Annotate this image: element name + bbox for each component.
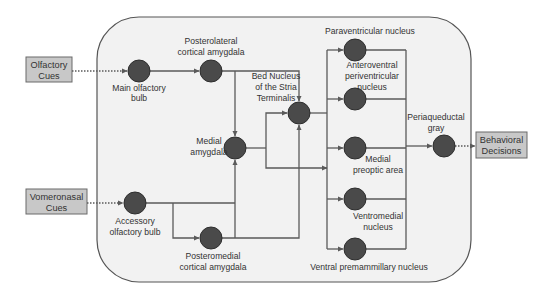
bnst-label-3: Terminalis [257, 93, 296, 103]
olfactory-cues-label-1: Olfactory [31, 60, 68, 70]
olfactory-pathway-diagram: Olfactory Cues Vomeronasal Cues Behavior… [0, 0, 552, 297]
main-olfactory-bulb-label-1: Main olfactory [112, 83, 166, 93]
posteromedial-cortical-amygdala-node [200, 227, 222, 249]
periaqueductal-gray-label-1: Periaqueductal [407, 112, 464, 122]
anteroventral-label-2: periventricular [345, 71, 399, 81]
anteroventral-label-3: nucleus [357, 82, 387, 92]
ventral-premammillary-nucleus-node [344, 238, 366, 260]
paraventricular-label: Paraventricular nucleus [325, 26, 415, 36]
medial-amygdala-label-2: amygdala [190, 147, 227, 157]
posteromedial-label-2: cortical amygdala [180, 262, 247, 272]
ventral-premammillary-label: Ventral premammillary nucleus [310, 262, 428, 272]
behavioral-decisions-box: Behavioral Decisions [476, 132, 527, 158]
medial-preoptic-area-node [344, 137, 366, 159]
periaqueductal-gray-node [433, 135, 455, 157]
accessory-olfactory-bulb-label-1: Accessory [115, 216, 155, 226]
accessory-olfactory-bulb-node [124, 192, 146, 214]
medial-preoptic-label-2: preoptic area [353, 165, 403, 175]
posterolateral-cortical-amygdala-node [200, 60, 222, 82]
brain-region-panel [97, 17, 471, 282]
olfactory-cues-label-2: Cues [38, 71, 60, 81]
ventromedial-label-1: Ventromedial [353, 211, 403, 221]
bnst-node [288, 102, 310, 124]
bnst-label-1: Bed Nucleus [252, 71, 301, 81]
accessory-olfactory-bulb-label-2: olfactory bulb [109, 227, 160, 237]
medial-preoptic-label-1: Medial [365, 154, 390, 164]
posterolateral-label-1: Posterolateral [184, 36, 237, 46]
posteromedial-label-1: Posteromedial [186, 251, 241, 261]
anteroventral-label-1: Anteroventral [346, 60, 397, 70]
main-olfactory-bulb-node [128, 60, 150, 82]
posterolateral-label-2: cortical amygdala [178, 47, 245, 57]
behavioral-decisions-label-1: Behavioral [480, 135, 523, 145]
behavioral-decisions-label-2: Decisions [482, 146, 522, 156]
ventromedial-nucleus-node [344, 188, 366, 210]
vomeronasal-cues-label-1: Vomeronasal [30, 192, 84, 202]
periaqueductal-gray-label-2: gray [428, 123, 445, 133]
medial-amygdala-label-1: Medial [196, 136, 221, 146]
olfactory-cues-box: Olfactory Cues [26, 57, 72, 82]
vomeronasal-cues-label-2: Cues [46, 203, 68, 213]
bnst-label-2: of the Stria [255, 82, 297, 92]
ventromedial-label-2: nucleus [363, 222, 393, 232]
vomeronasal-cues-box: Vomeronasal Cues [26, 189, 87, 214]
main-olfactory-bulb-label-2: bulb [131, 93, 147, 103]
paraventricular-nucleus-node [344, 39, 366, 61]
